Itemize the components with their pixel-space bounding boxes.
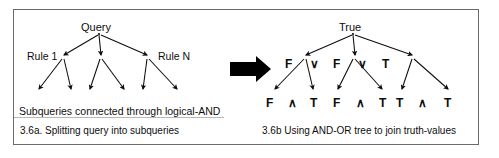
and-operator-3: ∧ [418, 97, 427, 109]
figure-container: Query Rule 1 Rule N Subqueries connected… [0, 0, 499, 158]
true-root-label: True [339, 22, 361, 33]
or-operator-2: ∨ [358, 58, 367, 70]
and-operator-1: ∧ [288, 97, 297, 109]
middle-value-1: F [285, 58, 292, 70]
rule-n-label: Rule N [158, 51, 190, 62]
leaf-value-1: F [266, 97, 273, 109]
leaf-value-3: F [333, 97, 340, 109]
leaf-value-4: T [379, 97, 386, 109]
subqueries-summary-text: Subqueries connected through logical-AND [19, 106, 220, 117]
leaf-value-2: T [310, 97, 317, 109]
leaf-value-6: T [444, 97, 451, 109]
left-panel-divider [14, 117, 224, 118]
caption-3-6a: 3.6a. Splitting query into subqueries [20, 126, 179, 136]
middle-value-2: F [333, 58, 340, 70]
leaf-value-5: T [396, 97, 403, 109]
query-root-label: Query [81, 22, 111, 33]
middle-value-3: T [382, 58, 389, 70]
or-operator-1: ∨ [310, 58, 319, 70]
and-operator-2: ∧ [356, 97, 365, 109]
rule-1-label: Rule 1 [27, 51, 57, 62]
caption-3-6b: 3.6b Using AND-OR tree to join truth-val… [262, 126, 456, 136]
